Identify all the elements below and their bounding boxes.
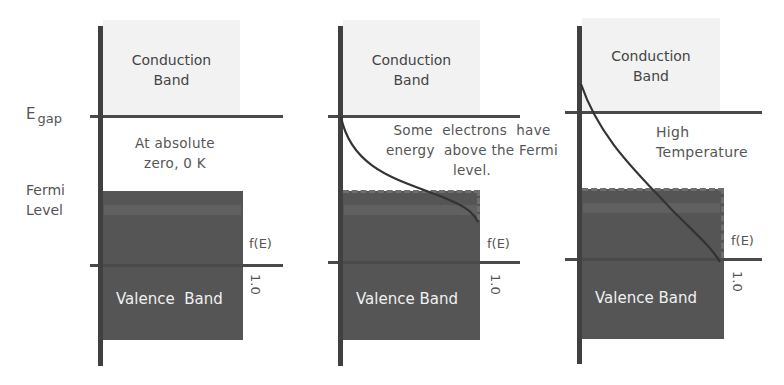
fermi-dirac-curves xyxy=(0,0,784,385)
fermi-curve-high-temp xyxy=(581,84,720,262)
fermi-curve-mid-temp xyxy=(341,117,478,222)
